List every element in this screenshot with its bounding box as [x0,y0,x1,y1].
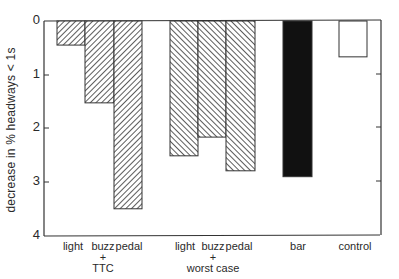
x-label-light-worst: light [170,240,200,252]
x-label-worst-case: worst case [183,262,243,274]
y-tick-2: 2 [28,119,40,134]
y-tick-0: 0 [28,12,40,27]
x-label-bar: bar [283,240,313,252]
bar-buzz-TTC [85,21,114,103]
bar-buzz-worst-case [198,21,226,137]
bar-light-TTC [57,21,85,45]
bar-pedal-worst-case [226,21,255,171]
y-tick-4: 4 [28,227,40,242]
y-axis-label: decrease in % headways < 1s [4,47,18,212]
y-tick-1: 1 [28,66,40,81]
chart-canvas [0,0,399,279]
bar-pedal-TTC [114,21,142,209]
x-label-pedal-ttc: pedal [114,240,144,252]
bar-light-worst-case [170,21,198,156]
x-label-ttc: TTC [88,262,118,274]
y-tick-3: 3 [28,173,40,188]
bar-bar-bar [283,21,312,177]
x-label-pedal-worst: pedal [224,240,254,252]
x-axis [44,235,380,236]
bar-control-control [339,21,367,57]
x-label-control: control [333,240,377,252]
x-label-light-ttc: light [58,240,88,252]
